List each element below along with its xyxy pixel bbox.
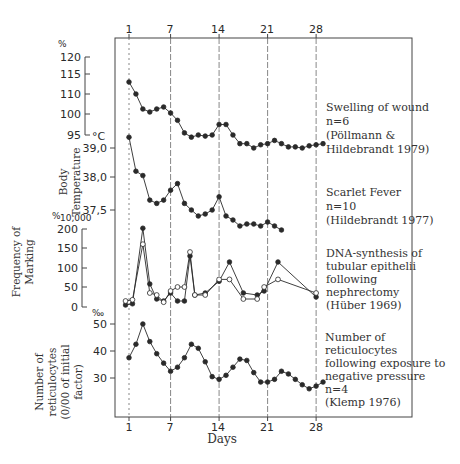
open-marker xyxy=(276,277,281,282)
legend-line: following exposure to xyxy=(325,357,446,370)
filled-marker xyxy=(168,369,173,374)
filled-marker xyxy=(203,360,208,365)
filled-marker xyxy=(265,141,270,146)
filled-marker xyxy=(245,222,250,227)
filled-marker xyxy=(189,135,194,140)
filled-marker xyxy=(182,201,187,206)
open-marker xyxy=(314,291,319,296)
legend-line: (Hüber 1969) xyxy=(326,299,402,312)
top-tick: 7 xyxy=(167,23,174,36)
filled-marker xyxy=(154,107,159,112)
legend-line: nephrectomy xyxy=(326,286,400,299)
legend-line: following xyxy=(326,273,377,286)
filled-marker xyxy=(141,107,146,112)
filled-marker xyxy=(134,169,139,174)
filled-marker xyxy=(272,377,277,382)
filled-marker xyxy=(272,138,277,143)
legend-line: n=4 xyxy=(325,383,348,396)
filled-marker xyxy=(238,224,243,229)
series-line xyxy=(129,82,323,148)
open-marker xyxy=(203,293,208,298)
filled-marker xyxy=(238,141,243,146)
filled-marker xyxy=(245,141,250,146)
filled-marker xyxy=(279,369,284,374)
top-tick: 21 xyxy=(260,23,274,36)
filled-marker xyxy=(189,342,194,347)
filled-marker xyxy=(182,299,187,304)
filled-marker xyxy=(293,377,298,382)
legend-fever: Scarlet Fever n=10 (Hildebrandt 1977) xyxy=(326,186,434,227)
legend-line: (Klemp 1976) xyxy=(325,396,401,409)
chart-figure: 1 7 14 21 28 1 7 14 21 28 Days % 120 115… xyxy=(0,0,460,464)
filled-marker xyxy=(224,373,229,378)
swelling-tick: 115 xyxy=(60,68,81,81)
filled-marker xyxy=(147,339,152,344)
legend-line: reticulocytes xyxy=(325,344,397,357)
filled-marker xyxy=(134,342,139,347)
filled-marker xyxy=(286,145,291,150)
filled-marker xyxy=(231,365,236,370)
legend-line: (Hildebrandt 1977) xyxy=(326,214,434,227)
marking-ylabel: Marking xyxy=(23,239,35,285)
filled-marker xyxy=(224,214,229,219)
swelling-tick: 110 xyxy=(60,88,81,101)
filled-marker xyxy=(217,195,222,200)
filled-marker xyxy=(279,228,284,233)
filled-marker xyxy=(314,384,319,389)
filled-marker xyxy=(293,145,298,150)
marking-tick: 200 xyxy=(57,223,78,236)
swelling-tick: 95 xyxy=(67,129,81,142)
retic-ylabel: factor) xyxy=(72,364,84,400)
filled-marker xyxy=(141,173,146,178)
temp-ylabel: Body xyxy=(57,169,69,196)
temp-tick: 38,0 xyxy=(83,171,108,184)
temp-ylabel: Temperature xyxy=(70,148,82,217)
legend-line: Number of xyxy=(325,331,386,344)
marking-tick: 100 xyxy=(57,262,78,275)
open-marker xyxy=(130,297,135,302)
open-marker xyxy=(241,297,246,302)
filled-marker xyxy=(307,144,312,149)
legend-line: Scarlet Fever xyxy=(326,186,402,199)
open-marker xyxy=(182,285,187,290)
filled-marker xyxy=(196,214,201,219)
filled-marker xyxy=(210,133,215,138)
swelling-unit: % xyxy=(58,39,67,49)
marking-tick: 0 xyxy=(71,301,78,314)
filled-marker xyxy=(203,212,208,217)
open-marker xyxy=(262,285,267,290)
legend-dna: DNA-synthesis of tubular epithelii follo… xyxy=(326,247,423,312)
filled-marker xyxy=(272,224,277,229)
legend-line: n=10 xyxy=(326,200,356,213)
swelling-tick: 120 xyxy=(60,51,81,64)
filled-marker xyxy=(251,146,256,151)
top-tick: 1 xyxy=(126,23,133,36)
filled-marker xyxy=(265,220,270,225)
swelling-axis: % 120 115 110 100 95 °C xyxy=(58,39,106,143)
filled-marker xyxy=(258,224,263,229)
filled-marker xyxy=(147,110,152,115)
legend-retic: Number of reticulocytes following exposu… xyxy=(325,331,446,409)
filled-marker xyxy=(161,198,166,203)
filled-marker xyxy=(251,370,256,375)
retic-ylabel: Number of xyxy=(33,352,45,411)
filled-marker xyxy=(276,260,281,265)
filled-marker xyxy=(147,198,152,203)
retic-tick: 30 xyxy=(93,372,107,385)
filled-marker xyxy=(127,135,132,140)
open-marker xyxy=(175,285,180,290)
filled-marker xyxy=(196,346,201,351)
bottom-axis: 1 7 14 21 28 Days xyxy=(126,421,324,446)
bottom-tick: 21 xyxy=(260,421,274,434)
series-line xyxy=(126,228,317,305)
filled-marker xyxy=(161,361,166,366)
filled-marker xyxy=(182,355,187,360)
filled-marker xyxy=(307,387,312,392)
open-marker xyxy=(227,277,232,282)
marking-axis: % 10,000 200 150 100 50 0 Frequency of M… xyxy=(10,211,92,314)
marking-tick: 50 xyxy=(64,281,78,294)
filled-marker xyxy=(300,146,305,151)
bottom-tick: 7 xyxy=(167,421,174,434)
filled-marker xyxy=(321,141,326,146)
legend-line: tubular epithelii xyxy=(326,260,417,273)
